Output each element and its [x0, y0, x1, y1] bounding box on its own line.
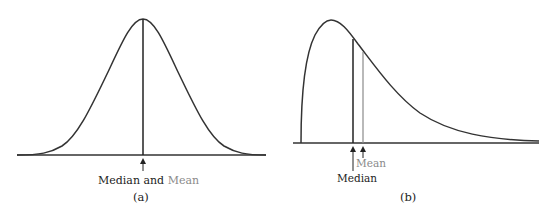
panel-a-normal-curve	[17, 19, 266, 155]
panel-a-arrow-head	[140, 158, 146, 164]
panel-b-median-arrow-head	[350, 146, 356, 152]
panel-a-caption: (a)	[133, 190, 149, 204]
panel-b-mean-label: Mean	[356, 157, 386, 169]
panel-a-label: Median and Mean	[98, 174, 199, 187]
panel-b-caption: (b)	[400, 190, 416, 204]
panel-b-median-label: Median	[337, 172, 377, 184]
panel-b-skewed	[293, 20, 539, 171]
panel-a-symmetric	[17, 19, 266, 171]
panel-b-mean-arrow-head	[360, 146, 366, 152]
panel-b-skewed-curve	[301, 20, 539, 143]
panel-a-median-label: Median and	[98, 174, 164, 187]
panel-a-mean-label: Mean	[168, 174, 199, 187]
distribution-diagrams	[0, 0, 550, 211]
